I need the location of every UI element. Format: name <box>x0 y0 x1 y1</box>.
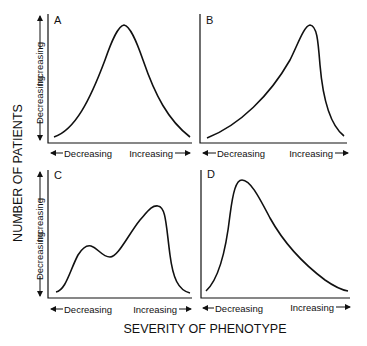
x-high-label: Increasing <box>129 148 173 159</box>
panel-c-axes <box>48 170 192 298</box>
y-axis-title: NUMBER OF PATIENTS <box>11 104 25 242</box>
panel-b-label: B <box>206 14 213 26</box>
x-axis-title: SEVERITY OF PHENOTYPE <box>123 322 286 336</box>
panel-c-label: C <box>54 169 62 181</box>
panel-d-x-labels: Decreasing Increasing <box>203 302 350 314</box>
panel-a-y-labels: Increasing Decreasing <box>34 16 45 140</box>
panel-d-label: D <box>207 168 215 180</box>
figure: NUMBER OF PATIENTS SEVERITY OF PHENOTYPE… <box>0 0 367 346</box>
panel-b-axes <box>200 14 347 143</box>
panel-c: C Increasing Decreasing Decreasing Incre… <box>34 169 192 315</box>
panel-b: B Decreasing Increasing <box>200 14 348 159</box>
panel-b-x-labels: Decreasing Increasing <box>203 148 348 159</box>
panel-a-x-labels: Decreasing Increasing <box>51 148 190 159</box>
x-low-label: Decreasing <box>64 304 112 315</box>
panel-c-y-labels: Increasing Decreasing <box>34 172 45 296</box>
y-low-label: Decreasing <box>34 76 45 124</box>
x-high-label: Increasing <box>133 304 177 315</box>
panel-a: A Increasing Decreasing Decreasing Incre… <box>34 14 192 159</box>
panel-a-axes <box>48 14 192 143</box>
panel-d-curve <box>206 180 348 291</box>
panel-d-axes <box>201 170 350 298</box>
panel-a-label: A <box>54 14 62 26</box>
panel-c-curve <box>56 206 190 293</box>
x-high-label: Increasing <box>290 302 334 313</box>
x-high-label: Increasing <box>289 148 333 159</box>
y-low-label: Decreasing <box>34 232 45 280</box>
panel-a-curve <box>54 25 190 137</box>
panel-c-x-labels: Decreasing Increasing <box>51 304 191 315</box>
panel-d: D Decreasing Increasing <box>201 168 350 314</box>
panel-b-curve <box>207 25 344 138</box>
x-low-label: Decreasing <box>215 303 263 314</box>
x-low-label: Decreasing <box>217 148 265 159</box>
x-low-label: Decreasing <box>64 148 112 159</box>
